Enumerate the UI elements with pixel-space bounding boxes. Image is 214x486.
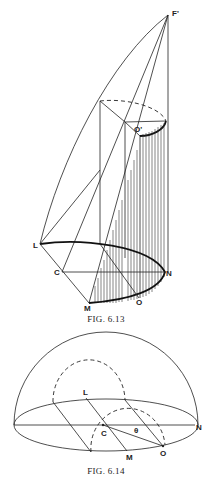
label-m: M <box>84 304 91 313</box>
label-c: C <box>54 268 60 277</box>
top-diameter <box>125 121 166 122</box>
label-l: L <box>33 241 38 250</box>
label-apex: F' <box>172 9 179 18</box>
label-l-14: L <box>83 388 88 397</box>
label-n-14: N <box>196 423 202 432</box>
label-top-center: O' <box>134 125 142 134</box>
figure-6-14: L C N M O θ FIG. 6.14 <box>14 332 202 476</box>
point-o <box>162 445 164 447</box>
chord-left <box>53 402 91 452</box>
line-l-up <box>40 170 100 244</box>
caption-6-14: FIG. 6.14 <box>87 466 125 476</box>
dashed-upper-semicircle <box>53 360 125 402</box>
label-n: N <box>166 269 172 278</box>
label-o: O <box>136 298 142 307</box>
label-theta: θ <box>134 426 138 435</box>
hemisphere-dome <box>14 332 198 425</box>
line-to-o <box>100 244 139 298</box>
diagram-canvas: F' O' L C N M O FIG. 6.13 L C N M O θ <box>0 0 214 486</box>
hatching <box>95 123 164 303</box>
point-c <box>102 424 104 426</box>
top-ellipse-dashed <box>100 100 166 121</box>
label-c-14: C <box>101 429 107 438</box>
top-radius <box>100 101 125 122</box>
figure-6-13: F' O' L C N M O FIG. 6.13 <box>33 9 179 324</box>
top-ellipse-thick-arc <box>140 121 166 136</box>
label-m-14: M <box>126 453 133 462</box>
chord-l-m <box>86 398 127 451</box>
caption-6-13: FIG. 6.13 <box>87 314 125 324</box>
apex-line-m <box>89 15 168 303</box>
label-o-14: O <box>160 449 166 458</box>
line-l-m <box>40 244 89 303</box>
